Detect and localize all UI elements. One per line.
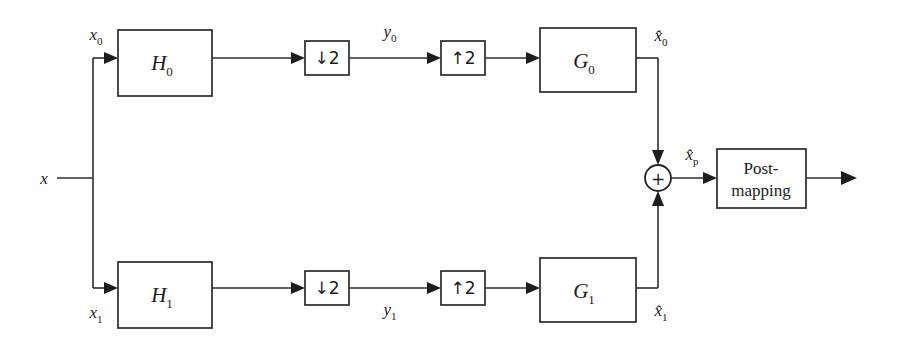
subband-1-label: y1 [381,300,396,322]
diagram-canvas: x x0 H0 ↓2 [0,0,899,352]
adder-plus-symbol: + [651,169,665,189]
arrowhead-into-h1 [104,282,118,294]
input-section: x [39,58,93,288]
arrowhead-into-h0 [104,52,118,64]
input-label: x [39,169,48,188]
post-mapping-section: x̂p Post- mapping [671,145,857,208]
recon-1-label: x̂1 [653,301,667,323]
filter-bank-diagram: x x0 H0 ↓2 [0,0,899,352]
downsampler-0-label: ↓2 [314,48,339,68]
upper-input-label: x0 [88,25,103,47]
upsampler-0-label: ↑2 [450,48,475,68]
arrowhead-into-down0 [291,52,305,64]
recon-0-label: x̂0 [653,26,668,48]
arrowhead-output [841,171,857,185]
lower-branch: x1 H1 ↓2 y1 ↑2 G1 [88,191,667,328]
post-mapping-label-line1: Post- [744,159,779,178]
arrowhead-into-up1 [427,282,441,294]
arrowhead-into-post [703,172,717,184]
upper-branch: x0 H0 ↓2 y0 ↑2 [88,22,668,165]
downsampler-1-label: ↓2 [314,278,339,298]
arrowhead-into-up0 [427,52,441,64]
arrowhead-into-adder-bottom [652,191,664,206]
upsampler-1-label: ↑2 [450,278,475,298]
post-mapping-label-line2: mapping [731,181,791,200]
arrowhead-into-down1 [291,282,305,294]
arrowhead-into-g1 [526,282,540,294]
summing-junction[interactable]: + [645,165,671,191]
adder-output-label: x̂p [684,145,699,167]
lower-input-label: x1 [88,303,102,325]
arrowhead-into-g0 [526,52,540,64]
subband-0-label: y0 [381,22,397,44]
arrowhead-into-adder-top [652,150,664,165]
